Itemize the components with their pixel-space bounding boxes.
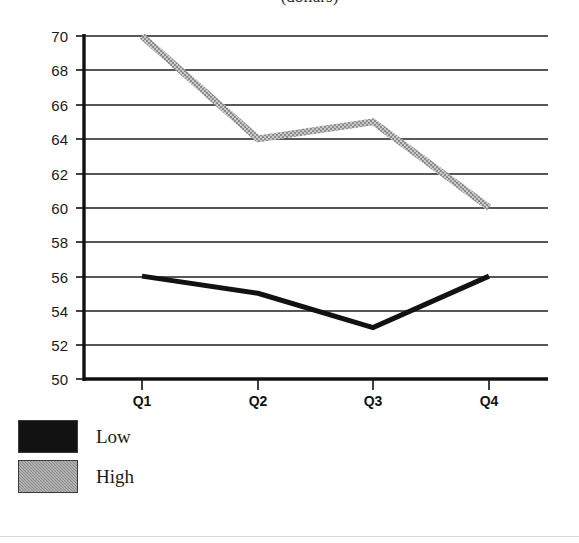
legend-swatch-low-icon bbox=[18, 420, 78, 453]
series-line-low bbox=[142, 276, 489, 328]
y-tick-label: 68 bbox=[28, 63, 68, 78]
y-tick-label: 66 bbox=[28, 98, 68, 113]
y-tick-label: 54 bbox=[28, 304, 68, 319]
x-tick-label-q3: Q3 bbox=[343, 394, 403, 408]
page-rule-divider bbox=[0, 536, 579, 537]
y-tick-label: 60 bbox=[28, 201, 68, 216]
legend-label-high: High bbox=[96, 467, 134, 486]
y-tick-label: 64 bbox=[28, 132, 68, 147]
x-tick-label-q1: Q1 bbox=[112, 394, 172, 408]
legend-item-high: High bbox=[18, 458, 318, 498]
x-tick-label-q2: Q2 bbox=[228, 394, 288, 408]
legend-item-low: Low bbox=[18, 418, 318, 458]
chart-figure: (dollars) bbox=[0, 0, 579, 543]
plot-area: 70 68 66 64 62 60 58 56 54 52 50 Q1 Q2 Q… bbox=[0, 0, 579, 400]
y-tick-label: 52 bbox=[28, 338, 68, 353]
series-line-high bbox=[142, 36, 489, 208]
legend-swatch-high-icon bbox=[18, 460, 78, 493]
chart-legend: Low High bbox=[18, 418, 318, 498]
y-tick-label: 62 bbox=[28, 167, 68, 182]
plot-canvas bbox=[0, 0, 579, 400]
y-tick-label: 58 bbox=[28, 235, 68, 250]
y-tick-label: 56 bbox=[28, 270, 68, 285]
x-tick-label-q4: Q4 bbox=[459, 394, 519, 408]
legend-label-low: Low bbox=[96, 427, 131, 446]
y-tick-label: 70 bbox=[28, 29, 68, 44]
y-tick-label: 50 bbox=[28, 372, 68, 387]
gridlines bbox=[84, 36, 548, 345]
